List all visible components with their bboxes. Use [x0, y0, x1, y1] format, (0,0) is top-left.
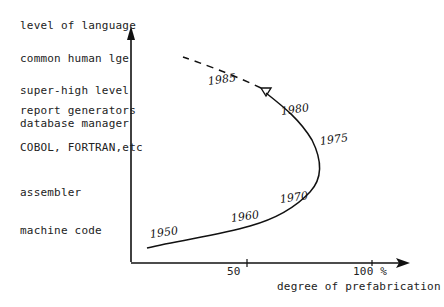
- x-tick-label-50: 50: [227, 265, 241, 278]
- level-super-high: super-high level: [20, 84, 129, 97]
- level-machine-code: machine code: [20, 224, 102, 237]
- x-tick-label-100: 100 %: [353, 265, 387, 278]
- level-assembler: assembler: [20, 186, 81, 199]
- level-report-generators: report generators: [20, 104, 136, 117]
- level-cobol-fortran: COBOL, FORTRAN,etc: [20, 141, 143, 154]
- marker-1980-icon: [261, 88, 271, 96]
- y-axis-title: level of language: [20, 19, 136, 32]
- level-common-human: common human lge: [20, 52, 129, 65]
- level-database-manager: database manager: [20, 117, 129, 130]
- x-axis-title: degree of prefabrication: [277, 280, 441, 293]
